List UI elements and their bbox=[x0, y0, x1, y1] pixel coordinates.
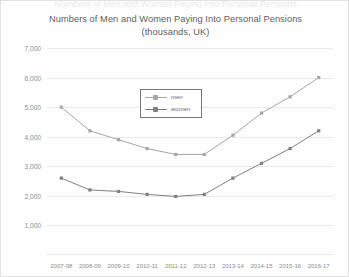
x-axis-tick-label: 2009-10 bbox=[107, 263, 129, 269]
data-point-marker bbox=[60, 177, 63, 180]
legend-label: men bbox=[171, 94, 183, 101]
y-axis-tick-label: 3,000 bbox=[24, 163, 41, 170]
data-point-marker bbox=[174, 153, 177, 156]
x-axis-tick-label: 2014-15 bbox=[250, 263, 272, 269]
data-point-marker bbox=[146, 147, 149, 150]
y-axis-tick-label: 6,000 bbox=[24, 74, 41, 81]
series-lines bbox=[47, 48, 333, 255]
data-point-marker bbox=[260, 111, 263, 114]
data-point-marker bbox=[203, 193, 206, 196]
chart-title-line2: (thousands, UK) bbox=[1, 26, 349, 39]
data-point-marker bbox=[317, 76, 320, 79]
legend-swatch-icon bbox=[145, 94, 167, 101]
data-point-marker bbox=[289, 147, 292, 150]
x-axis-tick-label: 2016-17 bbox=[308, 263, 330, 269]
x-axis-tick-label: 2007-08 bbox=[50, 263, 72, 269]
x-axis-tick-label: 2011-12 bbox=[165, 263, 187, 269]
cropped-title-sliver: Numbers of Men and Women Paying Into Per… bbox=[1, 1, 349, 8]
legend-item-men[interactable]: men bbox=[145, 93, 197, 102]
plot-area: 7,0006,0005,0004,0003,0002,0001,000 2007… bbox=[47, 48, 333, 255]
data-point-marker bbox=[203, 153, 206, 156]
chart-legend: menwomen bbox=[140, 89, 202, 118]
data-point-marker bbox=[117, 190, 120, 193]
data-point-marker bbox=[60, 106, 63, 109]
data-point-marker bbox=[88, 129, 91, 132]
data-point-marker bbox=[174, 195, 177, 198]
chart-title-line1: Numbers of Men and Women Paying Into Per… bbox=[1, 13, 349, 26]
legend-label: women bbox=[171, 106, 190, 113]
x-axis-tick-label: 2015-16 bbox=[279, 263, 301, 269]
x-axis-tick-label: 2013-14 bbox=[222, 263, 244, 269]
legend-item-women[interactable]: women bbox=[145, 105, 197, 114]
series-line-women bbox=[61, 131, 318, 197]
chart-title: Numbers of Men and Women Paying Into Per… bbox=[1, 13, 349, 38]
y-axis-tick-label: 7,000 bbox=[24, 45, 41, 52]
data-point-marker bbox=[231, 177, 234, 180]
data-point-marker bbox=[289, 95, 292, 98]
data-point-marker bbox=[231, 134, 234, 137]
x-axis-tick-label: 2008-09 bbox=[79, 263, 101, 269]
x-axis-tick-label: 2012-13 bbox=[193, 263, 215, 269]
legend-swatch-icon bbox=[145, 106, 167, 113]
data-point-marker bbox=[88, 188, 91, 191]
y-axis-tick-label: 2,000 bbox=[24, 192, 41, 199]
chart-figure: Numbers of Men and Women Paying Into Per… bbox=[0, 0, 349, 277]
data-point-marker bbox=[146, 193, 149, 196]
data-point-marker bbox=[260, 162, 263, 165]
y-axis-tick-label: 4,000 bbox=[24, 133, 41, 140]
data-point-marker bbox=[117, 138, 120, 141]
y-axis-tick-label: 1,000 bbox=[24, 222, 41, 229]
y-axis-tick-label: 5,000 bbox=[24, 104, 41, 111]
data-point-marker bbox=[317, 129, 320, 132]
x-axis-tick-label: 2010-11 bbox=[136, 263, 158, 269]
